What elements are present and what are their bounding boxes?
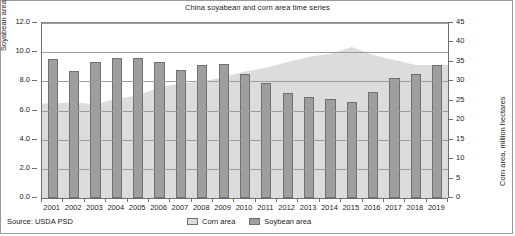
bar-2010[interactable] [240, 74, 250, 198]
bar-2001[interactable] [48, 59, 58, 198]
plot-area [41, 22, 449, 198]
y-tick-left [32, 197, 37, 198]
y-tick-label-left: 4.0 [6, 134, 30, 143]
y-tick-right [448, 100, 453, 101]
y-tick-right [448, 197, 453, 198]
y-tick-right [448, 178, 453, 179]
chart-legend: Corn area Soybean area [187, 217, 311, 226]
y-tick-label-left: 8.0 [6, 75, 30, 84]
x-tick [41, 198, 42, 202]
bar-2003[interactable] [90, 62, 100, 198]
x-tick [447, 198, 448, 202]
x-tick [62, 198, 63, 202]
x-tick [148, 198, 149, 202]
source-note: Source: USDA PSD [7, 217, 73, 226]
x-tick [426, 198, 427, 202]
y-tick-label-right: 5 [456, 173, 476, 182]
y-tick-right [448, 80, 453, 81]
x-tick [340, 198, 341, 202]
y-tick-label-right: 35 [456, 56, 476, 65]
y-tick-left [32, 139, 37, 140]
x-tick [362, 198, 363, 202]
gridline [42, 111, 448, 112]
x-tick [404, 198, 405, 202]
bar-2005[interactable] [133, 58, 143, 198]
bar-2002[interactable] [69, 71, 79, 198]
y-tick-label-left: 0.0 [6, 192, 30, 201]
x-tick [212, 198, 213, 202]
y-tick-label-right: 25 [456, 95, 476, 104]
x-tick [255, 198, 256, 202]
y-tick-right [448, 22, 453, 23]
bar-2012[interactable] [283, 93, 293, 198]
legend-label-soybean: Soybean area [264, 217, 311, 226]
y-tick-label-right: 15 [456, 134, 476, 143]
gridline [42, 81, 448, 82]
bar-2019[interactable] [432, 65, 442, 198]
y-tick-right [448, 139, 453, 140]
corn-swatch-icon [187, 218, 198, 225]
y-tick-label-left: 6.0 [6, 105, 30, 114]
y-tick-right [448, 61, 453, 62]
bar-2018[interactable] [411, 74, 421, 198]
x-axis-line [42, 198, 448, 199]
legend-item-soybean[interactable]: Soybean area [249, 217, 311, 226]
y-tick-label-right: 20 [456, 114, 476, 123]
bar-2007[interactable] [176, 70, 186, 198]
bar-2004[interactable] [112, 58, 122, 198]
y-tick-label-right: 45 [456, 17, 476, 26]
soybean-swatch-icon [249, 218, 260, 225]
y-tick-label-right: 10 [456, 153, 476, 162]
y-tick-label-right: 0 [456, 192, 476, 201]
y-tick-left [32, 110, 37, 111]
y-tick-label-left: 12.0 [6, 17, 30, 26]
gridline [42, 169, 448, 170]
bar-2016[interactable] [368, 92, 378, 198]
x-tick-label-2019: 2019 [423, 203, 449, 212]
plot-inner [42, 23, 448, 198]
chart-container: China soyabean and corn area time series… [0, 0, 513, 234]
bar-2017[interactable] [389, 78, 399, 198]
x-tick [191, 198, 192, 202]
gridline [42, 23, 448, 24]
y-tick-left [32, 22, 37, 23]
legend-label-corn: Corn area [202, 217, 235, 226]
y-tick-right [448, 41, 453, 42]
y-tick-left [32, 168, 37, 169]
x-tick [297, 198, 298, 202]
chart-title: China soyabean and corn area time series [1, 3, 514, 12]
x-tick [84, 198, 85, 202]
x-tick [383, 198, 384, 202]
y-tick-left [32, 51, 37, 52]
bar-2015[interactable] [347, 102, 357, 198]
y-axis-right-title: Corn area, million hectares [498, 56, 507, 186]
y-tick-right [448, 158, 453, 159]
x-tick [127, 198, 128, 202]
bar-2013[interactable] [304, 97, 314, 198]
x-tick [233, 198, 234, 202]
y-tick-label-right: 40 [456, 36, 476, 45]
bar-2008[interactable] [197, 65, 207, 198]
legend-item-corn[interactable]: Corn area [187, 217, 235, 226]
y-tick-label-left: 10.0 [6, 46, 30, 55]
bar-2009[interactable] [219, 64, 229, 198]
gridline [42, 140, 448, 141]
y-tick-label-right: 30 [456, 75, 476, 84]
bar-2014[interactable] [325, 99, 335, 198]
x-tick [276, 198, 277, 202]
bar-2006[interactable] [154, 62, 164, 198]
y-tick-left [32, 80, 37, 81]
y-tick-label-left: 2.0 [6, 163, 30, 172]
x-tick [169, 198, 170, 202]
x-tick [319, 198, 320, 202]
y-tick-right [448, 119, 453, 120]
gridline [42, 52, 448, 53]
x-tick [105, 198, 106, 202]
